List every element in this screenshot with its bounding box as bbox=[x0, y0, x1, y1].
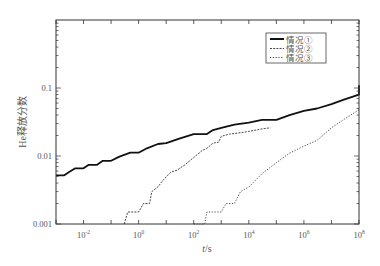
y-tick-label: 0.001 bbox=[33, 219, 52, 229]
x-tick-label: 104 bbox=[243, 229, 255, 240]
y-tick-label: 0.01 bbox=[37, 151, 52, 161]
x-tick-label: 10-2 bbox=[77, 229, 90, 240]
x-tick-label: 100 bbox=[133, 229, 145, 240]
x-tick-label: 108 bbox=[353, 229, 365, 240]
legend-label-3: 情况③ bbox=[286, 53, 313, 63]
series-layer bbox=[56, 85, 359, 224]
series-line-3 bbox=[194, 110, 359, 224]
he-release-chart: 10-2100102104106108 0.0010.010.1 t/s He释… bbox=[0, 0, 380, 266]
series-line-1 bbox=[56, 85, 359, 175]
x-tick-label: 102 bbox=[188, 229, 200, 240]
series-line-2 bbox=[124, 128, 270, 224]
x-axis-label: t/s bbox=[202, 243, 212, 254]
y-axis-label: He释放分数 bbox=[16, 96, 28, 148]
y-tick-label: 0.1 bbox=[41, 83, 52, 93]
x-tick-label: 106 bbox=[298, 229, 310, 240]
legend: 情况① 情况② 情况③ bbox=[266, 33, 326, 63]
